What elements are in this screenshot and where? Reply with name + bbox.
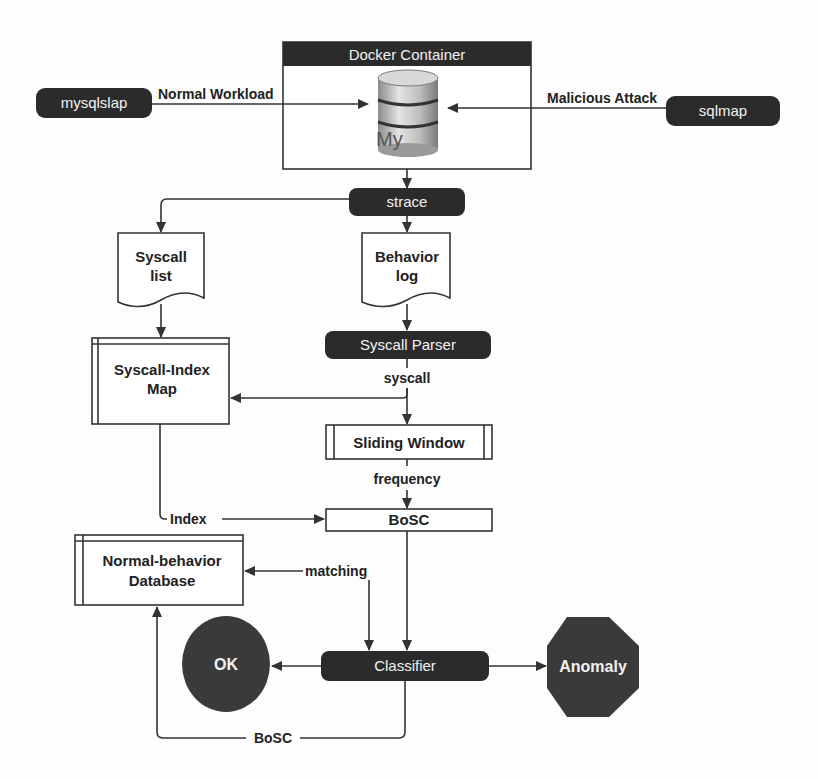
flowchart: Docker Container My mysqlslap Normal Wor…: [0, 0, 818, 779]
svg-text:Syscall Parser: Syscall Parser: [360, 336, 456, 353]
node-strace: strace: [349, 188, 465, 216]
svg-text:Map: Map: [147, 380, 177, 397]
docker-container-title: Docker Container: [349, 46, 466, 63]
node-syscall-parser: Syscall Parser: [325, 331, 491, 359]
edge-label-matching: matching: [305, 563, 367, 579]
edge-syscall-map: [231, 388, 407, 398]
svg-text:Classifier: Classifier: [374, 657, 436, 674]
edge-label-syscall: syscall: [384, 370, 431, 386]
svg-text:Sliding Window: Sliding Window: [353, 434, 465, 451]
node-sliding-window: Sliding Window: [326, 425, 492, 459]
node-ok: OK: [182, 616, 270, 712]
node-normal-behavior-database: Normal-behavior Database: [75, 535, 243, 605]
svg-text:sqlmap: sqlmap: [699, 102, 747, 119]
svg-text:mysqlslap: mysqlslap: [61, 94, 128, 111]
edge-strace-syscall-list: [161, 199, 349, 232]
svg-text:Anomaly: Anomaly: [559, 658, 627, 675]
svg-text:log: log: [396, 267, 419, 284]
edge-label-frequency: frequency: [374, 471, 441, 487]
node-syscall-index-map: Syscall-Index Map: [92, 338, 229, 424]
svg-text:strace: strace: [387, 193, 428, 210]
edge-label-bosc-feedback: BoSC: [254, 730, 292, 746]
svg-text:Syscall: Syscall: [135, 248, 187, 265]
node-sqlmap: sqlmap: [666, 96, 780, 126]
mysql-database-icon: My: [376, 70, 438, 157]
svg-text:Normal-behavior: Normal-behavior: [102, 552, 221, 569]
svg-text:OK: OK: [214, 656, 238, 673]
node-mysqlslap: mysqlslap: [36, 88, 152, 118]
paper-page: Docker Container My mysqlslap Normal Wor…: [0, 0, 818, 779]
mysql-logo-text: My: [376, 128, 403, 150]
edge-map-index: [160, 424, 167, 519]
svg-text:Database: Database: [129, 572, 196, 589]
node-syscall-list: Syscall list: [118, 233, 204, 307]
node-anomaly: Anomaly: [547, 617, 639, 717]
edge-label-malicious-attack: Malicious Attack: [547, 90, 657, 106]
svg-text:Syscall-Index: Syscall-Index: [114, 361, 211, 378]
svg-text:Behavior: Behavior: [375, 248, 439, 265]
node-bosc: BoSC: [326, 509, 492, 531]
svg-text:BoSC: BoSC: [389, 511, 430, 528]
node-behavior-log: Behavior log: [362, 233, 450, 307]
node-classifier: Classifier: [321, 651, 489, 681]
edge-classifier-feedback: [300, 681, 405, 738]
svg-text:list: list: [150, 267, 172, 284]
edge-label-normal-workload: Normal Workload: [158, 86, 274, 102]
edge-label-index: Index: [170, 511, 207, 527]
